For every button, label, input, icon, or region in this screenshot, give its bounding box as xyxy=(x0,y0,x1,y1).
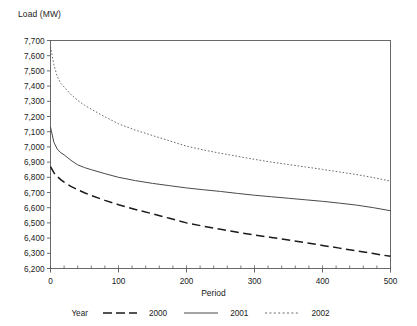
y-tick-label: 6,300 xyxy=(24,249,45,258)
y-tick-label: 6,800 xyxy=(24,173,45,182)
series-line-2002 xyxy=(51,47,391,182)
legend-title: Year xyxy=(71,309,88,318)
series-line-2000 xyxy=(51,167,391,257)
y-tick-label: 6,400 xyxy=(24,234,45,243)
x-tick-label: 100 xyxy=(112,277,126,286)
y-tick-label: 7,700 xyxy=(24,37,45,46)
y-tick-label: 6,500 xyxy=(24,219,45,228)
legend-item-2001: 2001 xyxy=(183,308,248,318)
x-tick-label: 500 xyxy=(384,277,398,286)
y-tick-label: 7,100 xyxy=(24,128,45,137)
y-tick-label: 7,200 xyxy=(24,113,45,122)
y-tick-label: 6,600 xyxy=(24,204,45,213)
y-tick-label: 7,300 xyxy=(24,97,45,106)
legend-item-2002: 2002 xyxy=(264,308,329,318)
legend-label-2000: 2000 xyxy=(149,309,167,318)
y-tick-label: 7,600 xyxy=(24,52,45,61)
legend-label-2001: 2001 xyxy=(230,309,248,318)
y-tick-label: 6,700 xyxy=(24,189,45,198)
x-axis-title-text: Period xyxy=(201,288,226,298)
series-line-2001 xyxy=(51,127,391,211)
x-tick-label: 0 xyxy=(48,277,53,286)
y-tick-label: 7,400 xyxy=(24,82,45,91)
x-tick-label: 300 xyxy=(248,277,262,286)
legend-swatch-2001 xyxy=(183,308,219,318)
x-tick-label: 400 xyxy=(316,277,330,286)
plot-canvas: 6,2006,3006,4006,5006,6006,7006,8006,900… xyxy=(0,0,417,300)
chart-legend: Year 2000 2001 2002 xyxy=(0,303,417,323)
legend-swatch-2000 xyxy=(102,308,138,318)
y-tick-label: 6,900 xyxy=(24,158,45,167)
y-tick-label: 6,200 xyxy=(24,265,45,274)
chart-figure: Load (MW) 6,2006,3006,4006,5006,6006,700… xyxy=(0,0,417,326)
legend-swatch-2002 xyxy=(264,308,300,318)
x-axis-title: Period xyxy=(0,288,417,298)
legend-label-2002: 2002 xyxy=(311,309,329,318)
legend-item-2000: 2000 xyxy=(102,308,167,318)
y-tick-label: 7,000 xyxy=(24,143,45,152)
x-tick-label: 200 xyxy=(180,277,194,286)
y-axis-title: Load (MW) xyxy=(18,9,61,19)
y-tick-label: 7,500 xyxy=(24,67,45,76)
